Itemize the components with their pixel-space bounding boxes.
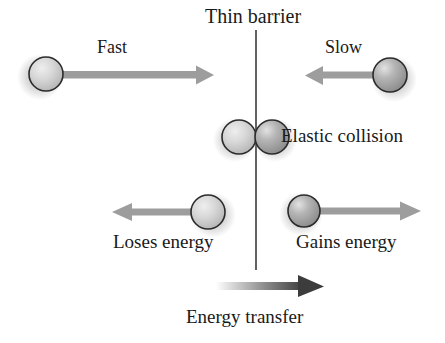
gains-energy-arrow [312, 202, 421, 221]
thin-barrier-text: Thin barrier [205, 5, 301, 27]
slow-incoming-ball [371, 56, 417, 102]
collision-ball-left [213, 118, 257, 162]
elastic-collision-label: Elastic collision [281, 126, 403, 145]
fast-label: Fast [97, 38, 127, 56]
diagram-canvas: Thin barrier Fast Slow Elastic collision… [0, 0, 445, 343]
thin-barrier-label: Thin barrier [205, 6, 301, 26]
fast-arrow [60, 66, 214, 85]
energy-transfer-arrow [216, 275, 324, 297]
fast-incoming-ball [17, 54, 63, 100]
diagram-graphics-layer [0, 0, 445, 343]
energy-transfer-label: Energy transfer [186, 307, 303, 326]
loses-energy-arrow [112, 203, 202, 221]
loses-energy-label: Loses energy [113, 232, 213, 251]
slow-arrow [305, 66, 374, 85]
gains-energy-ball [279, 192, 323, 236]
slow-label: Slow [325, 38, 362, 56]
gains-energy-label: Gains energy [296, 232, 396, 251]
